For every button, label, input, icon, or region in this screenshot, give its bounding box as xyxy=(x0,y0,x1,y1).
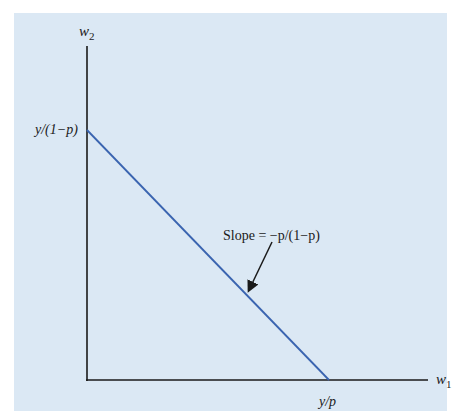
x-axis-label: w1 xyxy=(436,371,452,390)
slope-arrow xyxy=(249,242,272,290)
y-intercept-label: y/(1−p) xyxy=(33,122,78,138)
y-axis-label: w2 xyxy=(79,23,95,42)
slope-label: Slope = −p/(1−p) xyxy=(223,228,320,244)
diagram-canvas: w2 w1 y/(1−p) y/p Slope = −p/(1−p) xyxy=(0,0,460,419)
x-intercept-label: y/p xyxy=(317,394,336,409)
budget-line xyxy=(87,130,329,380)
